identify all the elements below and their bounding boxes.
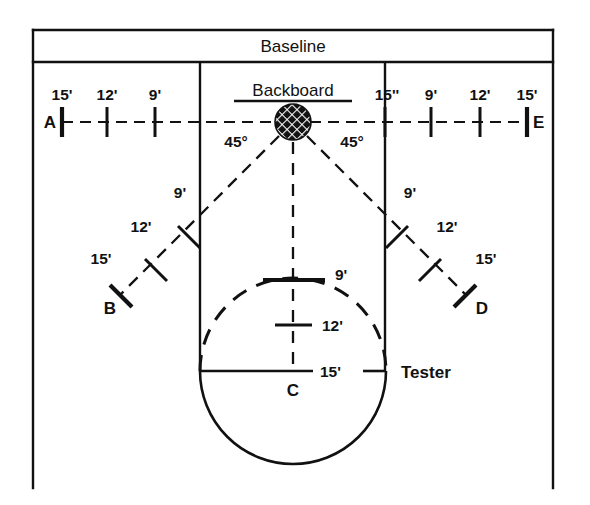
- axis-right-group: 15'' 9' 12' 15' E: [375, 86, 545, 137]
- diag-left-tick-9ft: [178, 226, 200, 248]
- diag-right-tick-12ft-label: 12': [437, 218, 458, 235]
- axis-right-tick-15in-label: 15'': [375, 86, 400, 103]
- diag-left-tick-9ft-label: 9': [174, 184, 186, 201]
- diag-right-tick-15ft-label: 15': [476, 250, 497, 267]
- axis-left-group: A 15' 12' 9': [44, 86, 161, 137]
- field-layout-diagram: Baseline A 15' 12' 9' 15'' 9': [0, 0, 590, 505]
- axis-right-tick-15ft-label: 15': [517, 86, 538, 103]
- diag-left-tick-15ft-label: 15': [91, 250, 112, 267]
- backboard-group: Backboard: [234, 81, 352, 140]
- diag-left-tick-12ft: [145, 259, 167, 281]
- axis-right-tick-9ft-label: 9': [425, 86, 437, 103]
- diag-right-tick-9ft: [386, 226, 408, 248]
- diagonal-right-group: 9' 12' 15' D: [307, 136, 496, 318]
- backboard-label: Backboard: [252, 81, 333, 100]
- axis-left-tick-12ft-label: 12': [97, 86, 118, 103]
- axis-left-tick-15ft-label: 15': [52, 86, 73, 103]
- diag-right-tick-9ft-label: 9': [404, 184, 416, 201]
- point-label-e: E: [533, 113, 544, 132]
- point-label-a: A: [44, 113, 56, 132]
- point-label-b: B: [104, 299, 116, 318]
- point-label-c: C: [287, 381, 299, 400]
- axis-left-tick-9ft-label: 9': [149, 86, 161, 103]
- center-tick-12ft-label: 12': [322, 317, 343, 334]
- center-tick-9ft-label: 9': [335, 266, 347, 283]
- axis-right-tick-12ft-label: 12': [470, 86, 491, 103]
- diag-right-tick-12ft: [419, 259, 441, 281]
- point-label-d: D: [476, 299, 488, 318]
- diag-left-tick-12ft-label: 12': [131, 218, 152, 235]
- angle-label-left: 45°: [224, 133, 247, 150]
- tester-label: Tester: [401, 363, 451, 382]
- diagonal-left-group: 9' 12' 15' B: [91, 136, 279, 318]
- angle-label-right: 45°: [340, 133, 363, 150]
- diagram-container: Baseline A 15' 12' 9' 15'' 9': [0, 0, 590, 505]
- diag-right-tick-15ft: [454, 285, 476, 307]
- baseline-title: Baseline: [260, 37, 325, 56]
- backboard-icon: [275, 104, 311, 140]
- center-tick-15ft-label: 15': [320, 363, 341, 380]
